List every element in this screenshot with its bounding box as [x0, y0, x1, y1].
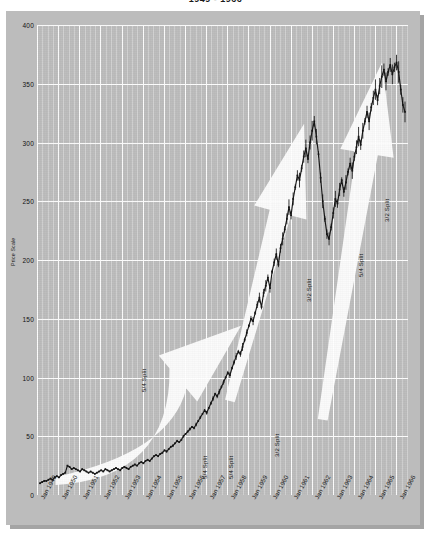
y-axis-tick-label: 300: [8, 139, 34, 146]
split-annotation: 3/2 Split: [306, 279, 312, 302]
split-annotation: 3/2 Split: [274, 434, 280, 457]
chart-page: 1949 - 1966 050100150200250300350400 Pri…: [0, 0, 431, 543]
price-bars: [39, 55, 406, 484]
y-axis-tick-label: 400: [8, 22, 34, 29]
split-annotation: 3/2 Split: [384, 199, 390, 222]
x-axis-labels: Jan 1949Jan 1950Jan 1951Jan 1952Jan 1953…: [37, 497, 408, 543]
y-axis-tick-label: 0: [8, 492, 34, 499]
y-axis-tick-label: 350: [8, 80, 34, 87]
y-axis-tick-label: 150: [8, 315, 34, 322]
price-line: [40, 63, 405, 484]
y-axis-title: Price Scale: [10, 238, 16, 266]
split-annotation: 5/4 Split: [141, 368, 147, 391]
y-axis-tick-label: 250: [8, 198, 34, 205]
plot-area: 5/4 Split5/4 Split5/4 Split3/2 Split3/2 …: [37, 25, 408, 495]
chart-title: 1949 - 1966: [0, 0, 431, 4]
chart-card-inner: 050100150200250300350400 Price Scale 5/4…: [6, 11, 420, 525]
price-series: [37, 25, 408, 495]
split-annotation: 5/4 Split: [358, 253, 364, 276]
y-axis-tick-label: 50: [8, 433, 34, 440]
split-annotation: 5/4 Split: [228, 455, 234, 478]
y-axis-tick-label: 100: [8, 374, 34, 381]
chart-card: 050100150200250300350400 Price Scale 5/4…: [6, 11, 420, 525]
